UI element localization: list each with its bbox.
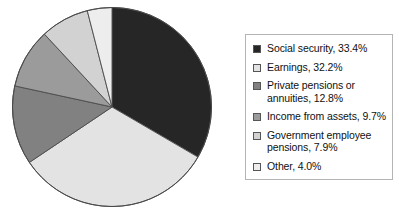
legend-swatch-earnings bbox=[253, 64, 261, 72]
legend-item-social-security: Social security, 33.4% bbox=[253, 42, 386, 55]
legend-item-earnings: Earnings, 32.2% bbox=[253, 61, 386, 74]
legend-item-other: Other, 4.0% bbox=[253, 160, 386, 173]
legend-swatch-private-pensions-or-annuities bbox=[253, 82, 261, 90]
legend-swatch-income-from-assets bbox=[253, 113, 261, 121]
legend-label-earnings: Earnings, 32.2% bbox=[267, 61, 343, 74]
legend-label-social-security: Social security, 33.4% bbox=[267, 42, 367, 55]
legend-swatch-other bbox=[253, 163, 261, 171]
legend-label-income-from-assets: Income from assets, 9.7% bbox=[267, 110, 386, 123]
chart-figure: Social security, 33.4% Earnings, 32.2% P… bbox=[0, 0, 399, 217]
pie-chart-svg bbox=[8, 2, 220, 215]
legend-label-other: Other, 4.0% bbox=[267, 160, 321, 173]
pie-chart bbox=[8, 2, 220, 215]
legend-label-private-pensions-or-annuities: Private pensions or annuities, 12.8% bbox=[267, 79, 355, 104]
legend-item-income-from-assets: Income from assets, 9.7% bbox=[253, 110, 386, 123]
legend-label-government-employee-pensions: Government employee pensions, 7.9% bbox=[267, 129, 371, 154]
legend-item-government-employee-pensions: Government employee pensions, 7.9% bbox=[253, 129, 386, 154]
pie-slice-group bbox=[13, 8, 212, 207]
legend-swatch-social-security bbox=[253, 45, 261, 53]
legend-item-private-pensions-or-annuities: Private pensions or annuities, 12.8% bbox=[253, 79, 386, 104]
chart-legend: Social security, 33.4% Earnings, 32.2% P… bbox=[245, 34, 393, 180]
legend-swatch-government-employee-pensions bbox=[253, 132, 261, 140]
